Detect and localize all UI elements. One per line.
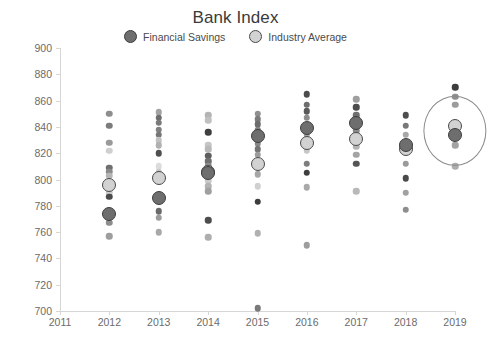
data-point-background-bank[interactable] xyxy=(402,206,409,213)
data-point-background-bank[interactable] xyxy=(156,229,163,236)
y-tick-label: 840 xyxy=(20,121,52,133)
y-tick-label: 820 xyxy=(20,147,52,159)
data-point-industry-average[interactable] xyxy=(300,136,314,150)
x-tick-label: 2011 xyxy=(49,316,72,328)
data-point-background-bank[interactable] xyxy=(304,184,311,191)
data-point-background-bank[interactable] xyxy=(304,91,311,98)
data-point-background-bank[interactable] xyxy=(254,230,261,237)
data-point-financial-savings[interactable] xyxy=(201,166,215,180)
data-point-background-bank[interactable] xyxy=(156,142,163,149)
data-point-industry-average[interactable] xyxy=(349,132,363,146)
data-point-background-bank[interactable] xyxy=(106,193,113,200)
data-point-background-bank[interactable] xyxy=(304,160,311,167)
data-point-background-bank[interactable] xyxy=(402,112,409,119)
data-point-background-bank[interactable] xyxy=(304,170,311,177)
x-tick-mark xyxy=(356,311,357,315)
x-tick-label: 2018 xyxy=(394,316,417,328)
data-point-background-bank[interactable] xyxy=(106,233,113,240)
data-point-background-bank[interactable] xyxy=(304,101,311,108)
legend-swatch-financial-savings xyxy=(124,30,137,43)
plot-area xyxy=(60,48,455,311)
y-tick-label: 740 xyxy=(20,252,52,264)
data-point-background-bank[interactable] xyxy=(402,160,409,167)
data-point-background-bank[interactable] xyxy=(353,160,360,167)
x-tick-label: 2014 xyxy=(196,316,219,328)
y-tick-label: 700 xyxy=(20,305,52,317)
data-point-background-bank[interactable] xyxy=(156,208,163,215)
y-tick-label: 760 xyxy=(20,226,52,238)
data-point-background-bank[interactable] xyxy=(106,111,113,118)
data-point-background-bank[interactable] xyxy=(353,188,360,195)
data-point-background-bank[interactable] xyxy=(106,122,113,129)
data-point-financial-savings[interactable] xyxy=(399,138,413,152)
data-point-industry-average[interactable] xyxy=(251,157,265,171)
data-point-background-bank[interactable] xyxy=(353,104,360,111)
data-point-background-bank[interactable] xyxy=(156,150,163,157)
y-tick-label: 900 xyxy=(20,42,52,54)
highlight-ellipse-annotation xyxy=(423,96,486,166)
data-point-background-bank[interactable] xyxy=(156,120,163,127)
x-tick-label: 2019 xyxy=(443,316,466,328)
data-point-background-bank[interactable] xyxy=(402,132,409,139)
data-point-background-bank[interactable] xyxy=(353,151,360,158)
data-point-background-bank[interactable] xyxy=(353,96,360,103)
data-point-background-bank[interactable] xyxy=(254,183,261,190)
data-point-financial-savings[interactable] xyxy=(152,191,166,205)
x-tick-mark xyxy=(406,311,407,315)
data-point-financial-savings[interactable] xyxy=(300,121,314,135)
x-tick-mark xyxy=(159,311,160,315)
data-point-background-bank[interactable] xyxy=(254,305,261,312)
data-point-background-bank[interactable] xyxy=(205,146,212,153)
data-point-background-bank[interactable] xyxy=(106,139,113,146)
legend-item-financial-savings[interactable]: Financial Savings xyxy=(124,30,225,43)
data-point-background-bank[interactable] xyxy=(452,84,459,91)
x-tick-mark xyxy=(455,311,456,315)
data-point-background-bank[interactable] xyxy=(402,189,409,196)
data-point-background-bank[interactable] xyxy=(304,242,311,249)
legend-label-industry-average: Industry Average xyxy=(268,31,347,43)
x-tick-mark xyxy=(60,311,61,315)
x-tick-label: 2015 xyxy=(246,316,269,328)
data-point-background-bank[interactable] xyxy=(205,188,212,195)
data-point-industry-average[interactable] xyxy=(152,171,166,185)
y-tick-label: 720 xyxy=(20,279,52,291)
x-tick-label: 2013 xyxy=(147,316,170,328)
y-tick-label: 780 xyxy=(20,200,52,212)
chart-legend: Financial Savings Industry Average xyxy=(0,30,471,43)
data-point-background-bank[interactable] xyxy=(304,108,311,115)
y-tick-label: 880 xyxy=(20,68,52,80)
y-tick-label: 860 xyxy=(20,95,52,107)
x-tick-mark xyxy=(109,311,110,315)
data-point-background-bank[interactable] xyxy=(106,147,113,154)
data-point-background-bank[interactable] xyxy=(254,171,261,178)
x-tick-mark xyxy=(307,311,308,315)
data-point-financial-savings[interactable] xyxy=(102,207,116,221)
data-point-background-bank[interactable] xyxy=(205,117,212,124)
data-point-background-bank[interactable] xyxy=(156,214,163,221)
data-point-background-bank[interactable] xyxy=(402,175,409,182)
legend-label-financial-savings: Financial Savings xyxy=(143,31,225,43)
data-point-background-bank[interactable] xyxy=(205,129,212,136)
data-point-background-bank[interactable] xyxy=(402,122,409,129)
data-point-background-bank[interactable] xyxy=(205,234,212,241)
x-tick-mark xyxy=(208,311,209,315)
x-tick-label: 2012 xyxy=(98,316,121,328)
legend-item-industry-average[interactable]: Industry Average xyxy=(249,30,347,43)
data-point-financial-savings[interactable] xyxy=(349,116,363,130)
data-point-background-bank[interactable] xyxy=(205,217,212,224)
chart-title: Bank Index xyxy=(0,8,471,28)
data-point-financial-savings[interactable] xyxy=(251,129,265,143)
y-tick-label: 800 xyxy=(20,174,52,186)
x-tick-label: 2016 xyxy=(295,316,318,328)
data-point-background-bank[interactable] xyxy=(304,114,311,121)
x-tick-label: 2017 xyxy=(345,316,368,328)
data-point-industry-average[interactable] xyxy=(102,178,116,192)
legend-swatch-industry-average xyxy=(249,30,262,43)
data-point-background-bank[interactable] xyxy=(254,199,261,206)
